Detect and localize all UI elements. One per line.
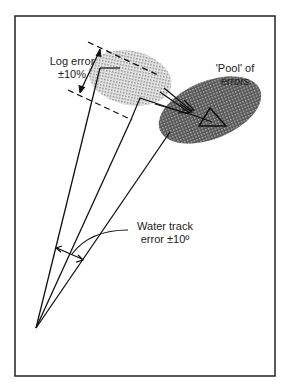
water-track-error-arc (57, 248, 82, 259)
log-error-line1: Log error (44, 55, 100, 68)
water-line1: Water track (130, 220, 200, 233)
water-line2: error ±10º (130, 233, 200, 246)
pool-line1: 'Pool' of (207, 62, 263, 75)
pool-line2: errors (207, 75, 263, 88)
track-ray-left (36, 68, 100, 328)
pool-of-errors-label: 'Pool' of errors (207, 62, 263, 88)
water-track-error-label: Water track error ±10º (130, 220, 200, 246)
track-ray-center (36, 122, 130, 328)
water-track-leader (72, 230, 128, 254)
log-error-line2: ±10% (44, 68, 100, 81)
log-error-label: Log error ±10% (44, 55, 100, 81)
